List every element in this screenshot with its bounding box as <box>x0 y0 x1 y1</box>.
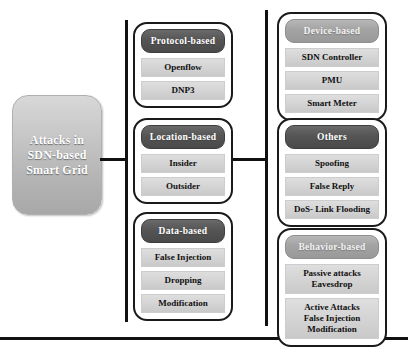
connector-vertical-column-2 <box>265 10 268 326</box>
group-item: Dropping <box>141 271 225 290</box>
group-item: DNP3 <box>141 81 225 100</box>
group-card-data-based: Data-based False Injection Dropping Modi… <box>133 212 233 321</box>
group-item: DoS- Link Flooding <box>285 200 379 219</box>
group-item: Spoofing <box>285 154 379 173</box>
group-title-device-based: Device-based <box>285 19 379 43</box>
group-item: SDN Controller <box>285 48 379 67</box>
group-title-location-based: Location-based <box>141 125 225 149</box>
group-item: Modification <box>141 294 225 313</box>
group-title-behavior-based: Behavior-based <box>285 235 379 259</box>
group-item: Passive attacks Eavesdrop <box>285 264 379 294</box>
group-item: False Injection <box>141 248 225 267</box>
group-title-data-based: Data-based <box>141 219 225 243</box>
root-node-label: Attacks in SDN-based Smart Grid <box>26 133 88 178</box>
group-item: Smart Meter <box>285 94 379 113</box>
group-item: Outsider <box>141 177 225 196</box>
connector-vertical-column-1 <box>125 20 128 322</box>
group-card-others: Others Spoofing False Reply DoS- Link Fl… <box>277 118 387 227</box>
group-title-protocol-based: Protocol-based <box>141 29 225 53</box>
group-item: PMU <box>285 71 379 90</box>
diagram-canvas: Attacks in SDN-based Smart Grid Protocol… <box>0 0 408 354</box>
connector-root-to-column-1 <box>100 158 128 161</box>
root-node-attacks-in-sdn-based-smart-grid: Attacks in SDN-based Smart Grid <box>12 95 102 215</box>
connector-column-1-to-column-2 <box>228 158 268 161</box>
group-title-others: Others <box>285 125 379 149</box>
group-item: Active Attacks False Injection Modificat… <box>285 298 379 339</box>
group-card-behavior-based: Behavior-based Passive attacks Eavesdrop… <box>277 228 387 347</box>
group-card-location-based: Location-based Insider Outsider <box>133 118 233 204</box>
group-item: Insider <box>141 154 225 173</box>
group-card-protocol-based: Protocol-based Openflow DNP3 <box>133 22 233 108</box>
group-card-device-based: Device-based SDN Controller PMU Smart Me… <box>277 12 387 121</box>
group-item: Openflow <box>141 58 225 77</box>
group-item: False Reply <box>285 177 379 196</box>
